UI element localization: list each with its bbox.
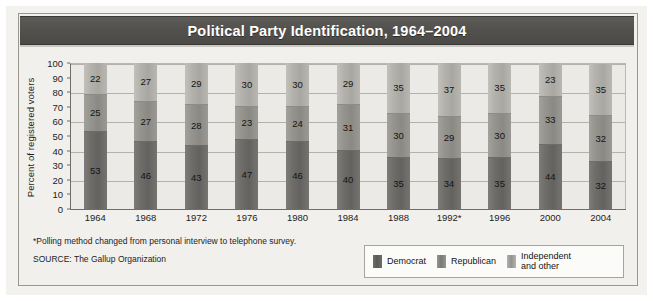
bar-segment-value: 34 bbox=[444, 179, 455, 189]
bar-segment[interactable]: 53 bbox=[84, 132, 107, 209]
bar-segment-value: 31 bbox=[343, 123, 354, 133]
y-axis-tick-label: 80 bbox=[52, 87, 63, 98]
bar-segment[interactable]: 35 bbox=[488, 63, 511, 114]
x-axis-tick-label: 2004 bbox=[575, 212, 626, 228]
bar-segment[interactable]: 29 bbox=[185, 63, 208, 105]
bar-segment[interactable]: 30 bbox=[488, 114, 511, 158]
bar-segment[interactable]: 33 bbox=[539, 97, 562, 145]
bar-segment-value: 25 bbox=[90, 108, 101, 118]
bar-segment[interactable]: 30 bbox=[387, 114, 410, 158]
stacked-bar[interactable]: 353232 bbox=[589, 63, 612, 209]
stacked-bar[interactable]: 292843 bbox=[185, 63, 208, 209]
bar-segment[interactable]: 35 bbox=[387, 158, 410, 209]
bar-segment[interactable]: 23 bbox=[235, 107, 258, 141]
bar-segment[interactable]: 29 bbox=[438, 117, 461, 159]
bar-slot: 302446 bbox=[272, 63, 323, 209]
bar-segment[interactable]: 27 bbox=[134, 63, 157, 102]
bar-segment[interactable]: 47 bbox=[235, 140, 258, 209]
bar-segment-value: 27 bbox=[141, 117, 152, 127]
x-axis-tick-label: 1984 bbox=[323, 212, 374, 228]
y-axis-tick-label: 50 bbox=[52, 131, 63, 142]
bar-segment[interactable]: 34 bbox=[438, 159, 461, 209]
bar-segment[interactable]: 35 bbox=[589, 64, 612, 115]
bar-segment-value: 32 bbox=[595, 134, 606, 144]
bar-segment[interactable]: 30 bbox=[235, 63, 258, 107]
bar-segment[interactable]: 40 bbox=[337, 151, 360, 209]
bar-segment-value: 46 bbox=[292, 171, 303, 181]
x-axis-tick-label: 1964 bbox=[70, 212, 121, 228]
bar-segment-value: 28 bbox=[191, 121, 202, 131]
stacked-bar[interactable]: 293140 bbox=[337, 63, 360, 209]
y-axis-tick-label: 60 bbox=[52, 116, 63, 127]
bar-segment-value: 35 bbox=[393, 179, 404, 189]
legend-label-line2: and other bbox=[521, 262, 571, 272]
stacked-bar[interactable]: 222553 bbox=[84, 63, 107, 209]
bar-segment[interactable]: 22 bbox=[84, 63, 107, 95]
stacked-bar[interactable]: 353035 bbox=[387, 63, 410, 209]
bar-segment-value: 23 bbox=[242, 118, 253, 128]
bar-segment[interactable]: 29 bbox=[337, 63, 360, 105]
x-axis-tick-label: 1980 bbox=[272, 212, 323, 228]
stacked-bar[interactable]: 272746 bbox=[134, 63, 157, 209]
footnote: *Polling method changed from personal in… bbox=[33, 236, 296, 246]
y-axis-tick-label: 70 bbox=[52, 101, 63, 112]
bar-segment[interactable]: 46 bbox=[286, 142, 309, 209]
stacked-bar[interactable]: 302347 bbox=[235, 63, 258, 209]
y-axis-tick-label: 40 bbox=[52, 145, 63, 156]
y-axis-tick-label: 0 bbox=[58, 204, 63, 215]
stacked-bar[interactable]: 372934 bbox=[438, 63, 461, 209]
chart-title-band: Political Party Identification, 1964–200… bbox=[20, 16, 634, 45]
bar-segment[interactable]: 32 bbox=[589, 162, 612, 209]
bar-segment[interactable]: 37 bbox=[438, 63, 461, 117]
bar-segment[interactable]: 35 bbox=[488, 158, 511, 209]
stacked-bar[interactable]: 233344 bbox=[539, 63, 562, 209]
bar-segment[interactable]: 35 bbox=[387, 63, 410, 114]
bar-group: 2225532727462928433023473024462931403530… bbox=[70, 63, 626, 209]
bar-segment-value: 33 bbox=[545, 115, 556, 125]
legend-item[interactable]: Republican bbox=[437, 255, 496, 268]
bar-slot: 353035 bbox=[474, 63, 525, 209]
stacked-bar[interactable]: 353035 bbox=[488, 63, 511, 209]
bar-segment[interactable]: 46 bbox=[134, 142, 157, 209]
chart-figure: Political Party Identification, 1964–200… bbox=[0, 0, 653, 301]
y-axis-tick-label: 90 bbox=[52, 72, 63, 83]
x-axis-tick-label: 1968 bbox=[121, 212, 172, 228]
bar-segment[interactable]: 43 bbox=[185, 146, 208, 209]
bar-segment[interactable]: 23 bbox=[539, 63, 562, 97]
bar-segment-value: 44 bbox=[545, 172, 556, 182]
bar-segment-value: 37 bbox=[444, 85, 455, 95]
legend-item[interactable]: Democrat bbox=[373, 255, 426, 268]
bar-segment-value: 30 bbox=[242, 80, 253, 90]
bar-slot: 272746 bbox=[121, 63, 172, 209]
x-axis-ticks: 19641968197219761980198419881992*1996200… bbox=[70, 212, 626, 228]
legend-label: Independentand other bbox=[521, 252, 571, 272]
bar-slot: 353232 bbox=[575, 63, 626, 209]
bar-slot: 372934 bbox=[424, 63, 475, 209]
bar-segment[interactable]: 24 bbox=[286, 107, 309, 142]
bar-slot: 233344 bbox=[525, 63, 576, 209]
bar-segment-value: 30 bbox=[292, 80, 303, 90]
bar-segment-value: 22 bbox=[90, 74, 101, 84]
bar-slot: 353035 bbox=[373, 63, 424, 209]
bar-segment-value: 32 bbox=[595, 181, 606, 191]
bar-slot: 302347 bbox=[222, 63, 273, 209]
bar-segment-value: 29 bbox=[343, 79, 354, 89]
bar-segment-value: 24 bbox=[292, 119, 303, 129]
legend-item[interactable]: Independentand other bbox=[507, 252, 571, 272]
bar-segment[interactable]: 28 bbox=[185, 105, 208, 146]
legend-label: Democrat bbox=[387, 257, 426, 267]
bar-segment[interactable]: 25 bbox=[84, 95, 107, 132]
bar-segment-value: 35 bbox=[595, 85, 606, 95]
bar-slot: 292843 bbox=[171, 63, 222, 209]
bar-segment[interactable]: 44 bbox=[539, 145, 562, 209]
bar-segment[interactable]: 30 bbox=[286, 63, 309, 107]
stacked-bar[interactable]: 302446 bbox=[286, 63, 309, 209]
bar-segment[interactable]: 27 bbox=[134, 102, 157, 141]
y-axis-tick-label: 20 bbox=[52, 174, 63, 185]
bar-segment[interactable]: 32 bbox=[589, 116, 612, 163]
bar-segment[interactable]: 31 bbox=[337, 105, 360, 150]
y-axis-tick-label: 10 bbox=[52, 189, 63, 200]
y-axis-title-text: Percent of registered voters bbox=[26, 77, 37, 197]
x-axis-tick-label: 2000 bbox=[525, 212, 576, 228]
legend-label: Republican bbox=[451, 257, 496, 267]
